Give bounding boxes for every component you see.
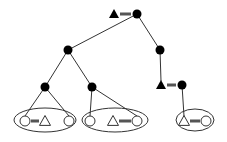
link-bar <box>119 120 131 123</box>
filled-triangle-node <box>109 9 119 18</box>
filled-triangle-node <box>156 80 166 89</box>
open-triangle-node <box>108 116 119 126</box>
tree-edges <box>25 14 184 116</box>
open-circle-node <box>20 116 30 126</box>
open-triangle-node <box>40 116 51 126</box>
tree-edge <box>25 87 45 116</box>
open-triangle-node <box>179 116 190 126</box>
open-circle-node <box>132 116 142 126</box>
tree-edge <box>160 50 161 81</box>
open-circle-node <box>85 116 95 126</box>
tree-edge <box>68 14 137 50</box>
tree-edge <box>45 50 68 87</box>
link-bar <box>167 84 176 87</box>
tree-edge <box>92 87 137 116</box>
filled-circle-node <box>156 46 165 55</box>
open-circle-node <box>64 116 74 126</box>
tree-diagram <box>0 0 227 142</box>
link-bar <box>120 13 131 16</box>
filled-circle-node <box>133 10 142 19</box>
filled-circle-node <box>178 81 187 90</box>
link-bar <box>190 120 200 123</box>
filled-circle-node <box>88 83 97 92</box>
link-bars <box>31 13 200 123</box>
open-circle-node <box>201 116 211 126</box>
filled-circle-node <box>64 46 73 55</box>
link-bar <box>31 120 39 123</box>
tree-edge <box>137 14 160 50</box>
tree-edge <box>45 87 69 116</box>
filled-circle-node <box>41 83 50 92</box>
tree-edge <box>68 50 92 87</box>
